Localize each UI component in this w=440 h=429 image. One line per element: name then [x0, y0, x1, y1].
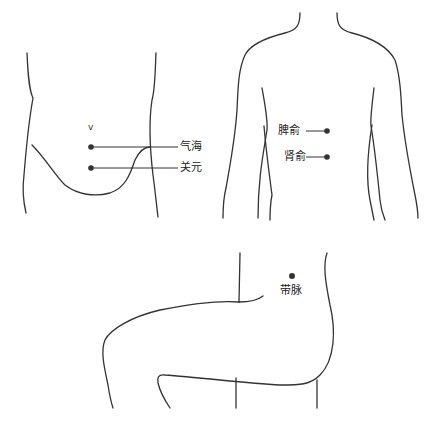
abdomen-figure	[23, 53, 178, 217]
navel-mark: v	[88, 122, 94, 132]
point-label-qihai: 气海	[180, 141, 202, 153]
point-label-guanyuan: 关元	[180, 162, 202, 174]
acupoint-diagram: v	[0, 0, 440, 429]
point-label-shenshu: 肾俞	[284, 151, 306, 163]
point-label-pishu: 脾俞	[278, 125, 300, 137]
side-hip-figure	[103, 253, 334, 408]
point-label-daimai: 带脉	[280, 285, 302, 297]
back-figure	[223, 13, 418, 220]
